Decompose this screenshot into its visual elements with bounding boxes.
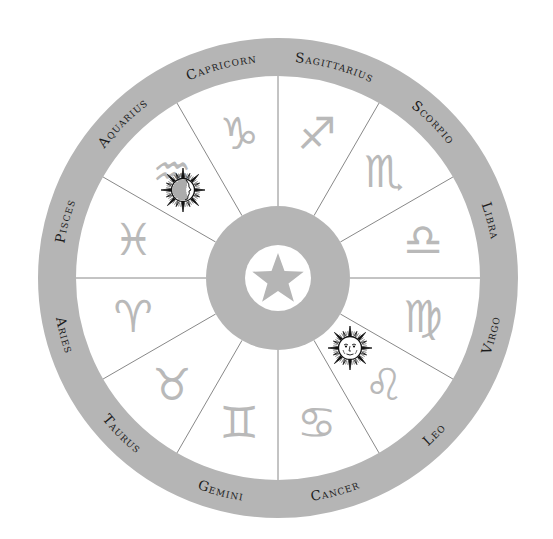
scorpio-icon: ♏	[364, 146, 403, 197]
sun-face-icon	[328, 326, 372, 370]
virgo-icon: ♍	[403, 291, 442, 342]
cancer-icon: ♋	[297, 397, 336, 448]
taurus-icon: ♉	[152, 359, 191, 410]
gemini-icon: ♊	[219, 397, 258, 448]
sagittarius-icon: ♐	[297, 108, 336, 159]
aries-icon: ♈	[113, 291, 152, 342]
zodiac-wheel: ♐♏♎♍♌♋♊♉♈♓♒♑ SagittariusScorpioLibraVirg…	[0, 0, 553, 539]
sun-profile-face-icon	[161, 168, 205, 212]
leo-icon: ♌	[364, 359, 403, 410]
libra-icon: ♎	[403, 214, 442, 265]
pisces-icon: ♓	[113, 214, 152, 265]
capricorn-icon: ♑	[219, 108, 258, 159]
